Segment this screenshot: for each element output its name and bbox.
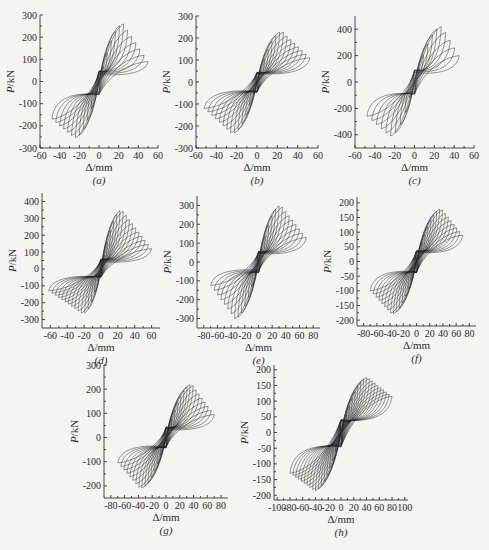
- y-tick-label: -100: [176, 275, 194, 286]
- plot-area: -200-150-100-50050100150200-80-60-40-200…: [357, 197, 476, 326]
- x-tick-label: 40: [449, 150, 459, 161]
- hysteresis-loops: [204, 32, 310, 133]
- x-tick-label: 60: [202, 500, 212, 511]
- x-axis-title: Δ/mm: [327, 513, 355, 525]
- y-tick-label: 0: [34, 263, 39, 274]
- x-tick-label: -40: [309, 502, 322, 513]
- x-tick-label: 60: [469, 150, 479, 161]
- y-tick-label: 100: [22, 54, 37, 65]
- y-tick-label: 0: [349, 256, 354, 267]
- chart-panel-e: -300-200-1000100200300-80-60-40-20020406…: [197, 196, 320, 328]
- y-tick-label: 300: [179, 200, 194, 211]
- y-tick-label: 150: [339, 212, 354, 223]
- chart-panel-h: -200-150-100-50050100150200-100-80-60-40…: [274, 365, 408, 500]
- x-tick-label: -80: [357, 328, 370, 339]
- y-axis-title: P/kN: [4, 70, 16, 94]
- x-axis-title: Δ/mm: [245, 341, 273, 353]
- x-axis-title: Δ/mm: [401, 161, 429, 173]
- y-axis-title: P/kN: [321, 250, 333, 274]
- x-tick-label: 100: [397, 502, 412, 513]
- x-tick-label: 20: [425, 328, 435, 339]
- x-tick-label: -40: [61, 330, 74, 341]
- x-tick-label: 60: [374, 502, 384, 513]
- plot-area: -400-2000200400-60-40-200204060Δ/mmP/kN(…: [355, 16, 474, 148]
- plot-area: -300-200-1000100200300-60-40-200204060Δ/…: [196, 16, 318, 148]
- x-tick-label: 0: [256, 330, 261, 341]
- y-tick-label: -100: [21, 280, 39, 291]
- x-tick-label: 0: [255, 150, 260, 161]
- hysteresis-loops: [118, 385, 214, 488]
- x-tick-label: 40: [281, 330, 291, 341]
- x-tick-label: -20: [322, 502, 335, 513]
- x-tick-label: 20: [272, 150, 282, 161]
- x-tick-label: 40: [438, 328, 448, 339]
- y-tick-label: -200: [176, 294, 194, 305]
- y-tick-label: 200: [337, 50, 352, 61]
- hysteresis-loops: [211, 206, 307, 319]
- y-tick-label: 100: [256, 396, 271, 407]
- x-tick-label: -40: [132, 500, 145, 511]
- y-tick-label: -200: [83, 480, 101, 491]
- x-tick-label: 0: [97, 150, 102, 161]
- x-tick-label: -20: [238, 330, 251, 341]
- y-axis-title: P/kN: [6, 249, 18, 273]
- chart-panel-b: -300-200-1000100200300-60-40-200204060Δ/…: [196, 16, 318, 148]
- x-tick-label: -20: [73, 150, 86, 161]
- hysteresis-loops: [367, 27, 459, 136]
- y-tick-label: -50: [341, 271, 354, 282]
- x-tick-label: -40: [53, 150, 66, 161]
- x-tick-label: -40: [383, 328, 396, 339]
- y-tick-label: -200: [19, 120, 37, 131]
- y-tick-label: 100: [339, 227, 354, 238]
- y-tick-label: -200: [336, 315, 354, 326]
- x-tick-label: -60: [211, 330, 224, 341]
- y-tick-label: -100: [175, 99, 193, 110]
- panel-caption: (f): [411, 352, 422, 365]
- x-tick-label: -80: [283, 502, 296, 513]
- x-axis-title: Δ/mm: [87, 341, 115, 353]
- y-tick-label: 0: [96, 432, 101, 443]
- plot-area: -200-150-100-50050100150200-100-80-60-40…: [274, 365, 408, 500]
- y-tick-label: 400: [24, 196, 39, 207]
- x-tick-label: -20: [77, 330, 90, 341]
- x-tick-label: -60: [44, 330, 57, 341]
- y-tick-label: 0: [347, 77, 352, 88]
- y-tick-label: 300: [178, 11, 193, 22]
- y-tick-label: -300: [176, 313, 194, 324]
- x-tick-label: 20: [429, 150, 439, 161]
- x-tick-label: 40: [133, 150, 143, 161]
- x-tick-label: 0: [99, 330, 104, 341]
- hysteresis-cycle: [330, 399, 353, 469]
- plot-area: -300-200-1000100200300400-60-40-20020406…: [42, 193, 160, 328]
- y-tick-label: 50: [344, 241, 354, 252]
- chart-panel-d: -300-200-1000100200300400-60-40-20020406…: [42, 193, 160, 328]
- y-tick-label: -100: [253, 458, 271, 469]
- y-tick-label: 50: [261, 411, 271, 422]
- y-tick-label: 100: [24, 247, 39, 258]
- x-tick-label: 60: [295, 330, 305, 341]
- x-tick-label: -60: [189, 150, 202, 161]
- x-tick-label: 80: [308, 330, 318, 341]
- y-axis-title: P/kN: [238, 421, 250, 445]
- x-axis-title: Δ/mm: [243, 161, 271, 173]
- y-tick-label: -200: [175, 121, 193, 132]
- panel-caption: (h): [335, 526, 348, 539]
- panel-caption: (g): [160, 524, 173, 537]
- y-tick-label: 100: [178, 55, 193, 66]
- x-tick-label: -20: [397, 328, 410, 339]
- x-tick-label: -40: [210, 150, 223, 161]
- y-axis-title: P/kN: [160, 70, 172, 94]
- x-tick-label: -40: [368, 150, 381, 161]
- x-tick-label: 60: [313, 150, 323, 161]
- chart-panel-g: -200-1000100200300-80-60-40-20020406080Δ…: [104, 365, 228, 498]
- y-tick-label: 0: [189, 257, 194, 268]
- x-tick-label: 80: [387, 502, 397, 513]
- x-tick-label: 60: [147, 330, 157, 341]
- y-tick-label: 200: [179, 219, 194, 230]
- y-tick-label: 0: [266, 427, 271, 438]
- y-tick-label: -200: [21, 297, 39, 308]
- x-tick-label: 60: [153, 150, 163, 161]
- hysteresis-loops: [290, 378, 392, 491]
- x-tick-label: 40: [130, 330, 140, 341]
- y-tick-label: 200: [256, 364, 271, 375]
